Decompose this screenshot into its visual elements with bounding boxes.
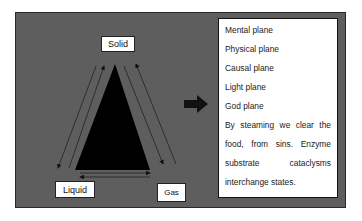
word: food, bbox=[225, 135, 244, 154]
plane-item: Light plane bbox=[225, 78, 331, 97]
plane-item: Physical plane bbox=[225, 40, 331, 59]
plane-item: Causal plane bbox=[225, 59, 331, 78]
word: from bbox=[251, 135, 268, 154]
word: the bbox=[319, 116, 331, 135]
right-block-arrow-icon bbox=[184, 95, 208, 113]
word: substrate bbox=[225, 154, 259, 173]
plane-item: Mental plane bbox=[225, 21, 331, 40]
description-line: substrate cataclysms bbox=[225, 154, 331, 173]
solid-label: Solid bbox=[101, 36, 135, 52]
description-line: food, from sins. Enzyme bbox=[225, 135, 331, 154]
word: sins. bbox=[276, 135, 293, 154]
word: By bbox=[225, 116, 235, 135]
word: steaming bbox=[240, 116, 274, 135]
liquid-label: Liquid bbox=[55, 181, 95, 198]
gas-label: Gas bbox=[157, 183, 186, 202]
description-line: By steaming we clear the bbox=[225, 116, 331, 135]
description-line: interchange states. bbox=[225, 173, 331, 192]
word: cataclysms bbox=[290, 154, 331, 173]
plane-item: God plane bbox=[225, 97, 331, 116]
word: Enzyme bbox=[301, 135, 331, 154]
word: clear bbox=[296, 116, 314, 135]
planes-text-box: Mental plane Physical plane Causal plane… bbox=[218, 18, 338, 198]
word: we bbox=[280, 116, 291, 135]
